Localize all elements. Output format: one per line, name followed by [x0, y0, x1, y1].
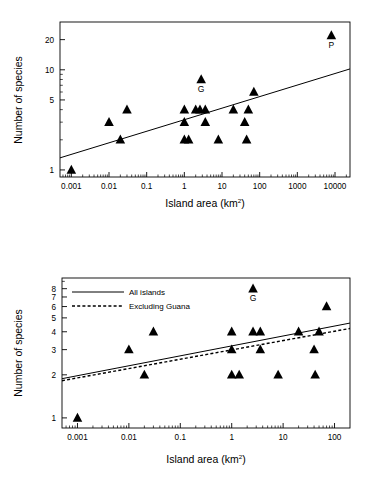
y-tick-label: 5	[51, 314, 56, 323]
plot-frame	[60, 22, 350, 177]
x-tick-label: 10	[279, 433, 289, 442]
x-tick-label: 100	[253, 182, 267, 191]
x-tick-label: 0.01	[121, 433, 137, 442]
x-tick-label: 10	[217, 182, 227, 191]
x-tick-label: 0.001	[61, 182, 82, 191]
y-tick-label: 7	[51, 293, 56, 302]
figure-container: 0.0010.010.1110100100010000151020GP Numb…	[0, 0, 376, 500]
y-tick-label: 4	[51, 328, 56, 337]
y-tick-label: 1	[51, 414, 56, 423]
y-tick-label: 20	[45, 36, 55, 45]
y-tick-label: 5	[49, 96, 54, 105]
data-point-label: G	[198, 84, 205, 94]
x-tick-label: 1000	[288, 182, 307, 191]
data-point-label: P	[329, 40, 335, 50]
y-tick-label: 10	[45, 66, 55, 75]
chart-panel-bottom: 0.0010.010.111010012345678GAll islandsEx…	[0, 250, 376, 500]
bottom-plot-svg: 0.0010.010.111010012345678GAll islandsEx…	[0, 250, 376, 500]
y-tick-label: 3	[51, 346, 56, 355]
top-plot-svg: 0.0010.010.1110100100010000151020GP	[0, 0, 376, 250]
data-point-label: G	[250, 293, 257, 303]
y-tick-label: 8	[51, 285, 56, 294]
x-tick-label: 1	[229, 433, 234, 442]
x-tick-label: 0.01	[101, 182, 117, 191]
y-tick-label: 2	[51, 371, 56, 380]
legend-label: All islands	[129, 288, 165, 297]
plot-frame	[62, 278, 350, 428]
x-tick-label: 0.001	[67, 433, 88, 442]
x-tick-label: 10000	[324, 182, 347, 191]
x-tick-label: 0.1	[175, 433, 187, 442]
y-tick-label: 1	[49, 166, 54, 175]
legend-label: Excluding Guana	[129, 302, 190, 311]
x-tick-label: 100	[328, 433, 342, 442]
chart-panel-top: 0.0010.010.1110100100010000151020GP Numb…	[0, 0, 376, 250]
y-tick-label: 6	[51, 303, 56, 312]
x-tick-label: 0.1	[141, 182, 153, 191]
x-tick-label: 1	[182, 182, 187, 191]
